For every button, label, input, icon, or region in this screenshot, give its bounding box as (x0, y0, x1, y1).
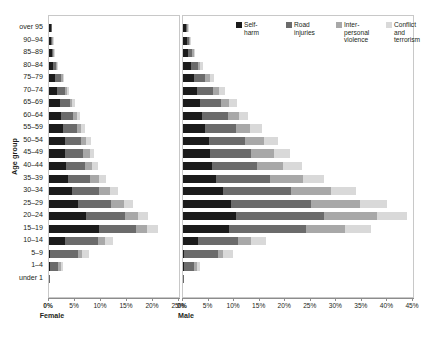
stacked-bar[interactable] (49, 124, 85, 132)
x-axis-tick (361, 298, 362, 301)
stacked-bar[interactable] (49, 187, 118, 195)
legend-label: Roadinjuries (294, 21, 327, 36)
bar-segment (191, 62, 198, 70)
bar-segment (223, 250, 233, 258)
stacked-bar[interactable] (49, 37, 53, 45)
stacked-bar[interactable] (183, 37, 191, 45)
stacked-bar[interactable] (183, 262, 200, 270)
bar-segment (49, 200, 78, 208)
stacked-bar[interactable] (183, 275, 184, 283)
panel-axis-title: Male (178, 312, 194, 320)
bar-segment (65, 137, 82, 145)
stacked-bar[interactable] (49, 262, 63, 270)
bar-segment (229, 225, 306, 233)
stacked-bar[interactable] (49, 237, 113, 245)
bar-segment (49, 162, 66, 170)
y-tick-label: 75–79 (0, 71, 46, 84)
x-axis-tick (310, 298, 311, 301)
bar-row (49, 47, 179, 60)
stacked-bar[interactable] (183, 124, 262, 132)
bar-segment (65, 149, 83, 157)
bar-row (49, 122, 179, 135)
stacked-bar[interactable] (183, 87, 225, 95)
y-tick-label: 55–59 (0, 121, 46, 134)
x-axis-tick (412, 298, 413, 301)
bar-segment (306, 225, 345, 233)
stacked-bar[interactable] (183, 49, 195, 57)
stacked-bar[interactable] (183, 112, 248, 120)
stacked-bar[interactable] (183, 250, 233, 258)
stacked-bar[interactable] (49, 275, 50, 283)
stacked-bar[interactable] (49, 250, 89, 258)
bar-row (49, 248, 179, 261)
legend-item[interactable]: Roadinjuries (286, 21, 327, 44)
bar-segment (183, 275, 184, 283)
stacked-bar[interactable] (49, 200, 133, 208)
stacked-bar[interactable] (183, 74, 214, 82)
stacked-bar[interactable] (49, 74, 64, 82)
stacked-bar[interactable] (49, 62, 58, 70)
legend-item[interactable]: Self-harm (236, 21, 277, 44)
bar-segment (125, 212, 139, 220)
stacked-bar[interactable] (49, 87, 69, 95)
bar-segment (264, 137, 278, 145)
legend-item[interactable]: Conflictandterrorism (386, 21, 425, 44)
stacked-bar[interactable] (183, 212, 407, 220)
stacked-bar[interactable] (183, 137, 278, 145)
stacked-bar[interactable] (49, 162, 98, 170)
stacked-bar[interactable] (49, 137, 91, 145)
bar-segment (229, 99, 237, 107)
bar-segment (50, 262, 59, 270)
bar-segment (283, 162, 301, 170)
bar-segment (236, 124, 250, 132)
stacked-bar[interactable] (183, 187, 356, 195)
legend-swatch (386, 22, 392, 28)
x-tick-label: 40% (380, 302, 393, 309)
stacked-bar[interactable] (49, 49, 54, 57)
bar-segment (85, 162, 92, 170)
legend-label: Conflictandterrorism (394, 21, 425, 44)
stacked-bar[interactable] (183, 99, 237, 107)
stacked-bar[interactable] (183, 225, 371, 233)
stacked-bar[interactable] (183, 24, 188, 32)
bar-segment (49, 137, 65, 145)
bar-segment (202, 112, 228, 120)
bar-segment (183, 149, 210, 157)
stacked-bar[interactable] (49, 99, 75, 107)
bar-row (49, 60, 179, 73)
stacked-bar[interactable] (183, 149, 290, 157)
legend-item[interactable]: Inter-personalviolence (336, 21, 377, 44)
x-axis-tick (74, 298, 75, 301)
bar-segment (78, 200, 112, 208)
stacked-bar[interactable] (183, 200, 387, 208)
x-tick-label: 5% (203, 302, 213, 309)
bar-segment (198, 237, 238, 245)
stacked-bar[interactable] (49, 149, 94, 157)
bar-segment (54, 49, 55, 57)
bar-segment (49, 212, 86, 220)
stacked-bar[interactable] (183, 175, 324, 183)
x-tick-label: 30% (329, 302, 342, 309)
stacked-bar[interactable] (183, 237, 266, 245)
panel-male (182, 15, 414, 298)
bar-row (183, 97, 413, 110)
legend: Self-harmRoadinjuriesInter-personalviole… (236, 21, 425, 44)
x-axis-tick (259, 298, 260, 301)
stacked-bar[interactable] (49, 24, 51, 32)
bar-segment (183, 87, 197, 95)
bar-segment (51, 24, 52, 32)
y-tick-label: 45–49 (0, 146, 46, 159)
bar-segment (311, 200, 360, 208)
bar-segment (183, 162, 212, 170)
stacked-bar[interactable] (49, 112, 80, 120)
y-tick-label: 85–89 (0, 46, 46, 59)
y-tick-label: 15–19 (0, 222, 46, 235)
stacked-bar[interactable] (49, 175, 106, 183)
stacked-bar[interactable] (49, 212, 148, 220)
stacked-bar[interactable] (183, 62, 203, 70)
stacked-bar[interactable] (49, 225, 158, 233)
bar-row (183, 273, 413, 286)
bar-segment (210, 74, 214, 82)
stacked-bar[interactable] (183, 162, 302, 170)
bar-segment (66, 162, 85, 170)
